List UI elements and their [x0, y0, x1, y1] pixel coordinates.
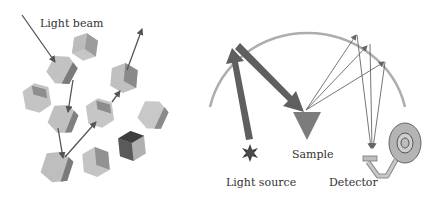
light-source-label: Light source	[226, 176, 296, 189]
light-source-icon	[242, 144, 258, 162]
crystal-particle	[22, 81, 53, 115]
collected-ray-arrow	[373, 62, 385, 148]
crystal-particle	[71, 31, 99, 62]
sample-icon	[293, 112, 321, 140]
crystal-particle	[85, 96, 115, 129]
scattered-ray-arrow	[112, 91, 120, 102]
diffuse-reflectance-diagram: Light beam Sample	[0, 0, 435, 200]
diffuse-ray-arrow	[306, 35, 356, 110]
detector-label: Detector	[329, 176, 378, 189]
particle-scattering-panel: Light beam	[22, 15, 172, 187]
crystal-particle	[43, 51, 80, 90]
exit-ray-arrow	[127, 29, 142, 70]
sample-label: Sample	[292, 148, 334, 161]
crystal-particle	[39, 147, 76, 186]
light-beam-label: Light beam	[40, 17, 104, 30]
collected-ray-arrow	[370, 44, 372, 148]
crystal-particle	[135, 96, 171, 134]
crystal-particle	[82, 146, 111, 178]
crystal-particle	[110, 62, 139, 94]
integrating-sphere-panel: Sample Light source Detector	[210, 33, 421, 189]
crystal-particle	[45, 100, 80, 138]
crystal-particle-dark	[118, 130, 147, 163]
